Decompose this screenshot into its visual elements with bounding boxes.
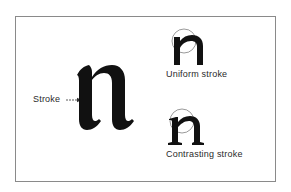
large-stroke-glyph-n (74, 63, 136, 131)
uniform-stroke-caption: Uniform stroke (166, 69, 227, 79)
contrasting-stroke-glyph-n (164, 105, 214, 147)
stroke-callout-label: Stroke (33, 94, 60, 104)
contrasting-stroke-caption: Contrasting stroke (166, 149, 243, 159)
uniform-stroke-glyph-n (166, 25, 216, 67)
